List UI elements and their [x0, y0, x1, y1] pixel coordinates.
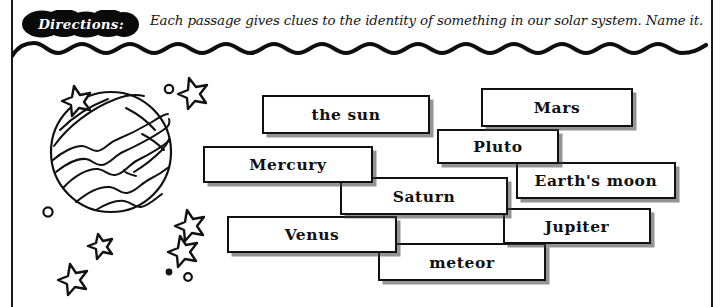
small-circle-icon — [166, 269, 173, 276]
word-box-pluto[interactable]: Pluto — [437, 129, 559, 164]
word-box-mars[interactable]: Mars — [481, 88, 633, 127]
small-circle-icon — [184, 273, 192, 281]
space-illustration — [38, 72, 238, 300]
directions-instruction-text: Each passage gives clues to the identity… — [150, 13, 695, 28]
word-box-venus[interactable]: Venus — [227, 216, 397, 253]
worksheet-page: Directions: Each passage gives clues to … — [0, 0, 728, 307]
word-box-meteor[interactable]: meteor — [378, 243, 546, 281]
cloud-bubble-badge-icon — [22, 10, 140, 38]
star-icon — [58, 264, 87, 295]
word-box-earths-moon[interactable]: Earth's moon — [516, 162, 676, 199]
star-icon — [168, 236, 197, 267]
small-circle-icon — [43, 207, 52, 216]
star-icon — [88, 234, 112, 259]
small-circle-icon — [165, 85, 173, 93]
word-box-mercury[interactable]: Mercury — [203, 146, 373, 183]
word-box-the-sun[interactable]: the sun — [262, 95, 430, 134]
wavy-line-divider-icon — [12, 40, 712, 60]
word-box-jupiter[interactable]: Jupiter — [503, 208, 651, 244]
directions-row: Directions: Each passage gives clues to … — [22, 8, 692, 40]
directions-badge: Directions: — [22, 10, 140, 38]
star-icon — [178, 78, 207, 109]
